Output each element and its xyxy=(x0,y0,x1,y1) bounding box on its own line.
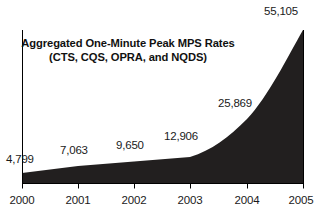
area-chart-svg xyxy=(0,0,316,215)
data-label-2001: 7,063 xyxy=(60,144,88,156)
data-label-2004: 25,869 xyxy=(218,97,252,109)
x-axis-label-2001: 2001 xyxy=(66,194,91,206)
chart-title: Aggregated One-Minute Peak MPS Rates (CT… xyxy=(0,36,256,64)
chart-title-line-1: Aggregated One-Minute Peak MPS Rates xyxy=(0,36,256,50)
chart-title-line-2: (CTS, CQS, OPRA, and NQDS) xyxy=(0,50,256,64)
x-axis-ticks xyxy=(23,184,304,189)
x-axis-label-2003: 2003 xyxy=(178,194,203,206)
data-label-2003: 12,906 xyxy=(164,130,198,142)
chart-container: Aggregated One-Minute Peak MPS Rates (CT… xyxy=(0,0,316,215)
x-axis-label-2000: 2000 xyxy=(10,194,35,206)
x-axis-label-2005: 2005 xyxy=(289,194,314,206)
data-label-2000: 4,799 xyxy=(6,153,34,165)
data-label-2002: 9,650 xyxy=(116,139,144,151)
x-axis-label-2002: 2002 xyxy=(122,194,147,206)
data-label-2005: 55,105 xyxy=(264,5,298,17)
x-axis-label-2004: 2004 xyxy=(235,194,260,206)
